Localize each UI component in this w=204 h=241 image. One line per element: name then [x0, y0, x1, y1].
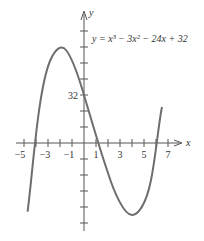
x-axis-label: x — [185, 137, 191, 148]
axes — [16, 11, 182, 231]
y-axis-label: y — [88, 7, 94, 18]
y-tick-label: 32 — [68, 90, 78, 101]
x-tick-label: −3 — [40, 149, 51, 160]
x-tick-label: −1 — [64, 149, 75, 160]
equation-label: y = x³ − 3x² − 24x + 32 — [91, 33, 188, 44]
cubic-function-graph: −5 −3 −1 1 3 5 7 32 x y y = x³ − 3x² − 2… — [0, 0, 204, 241]
cubic-curve — [28, 48, 162, 215]
x-tick-labels: −5 −3 −1 1 3 5 7 — [15, 149, 171, 160]
x-tick-label: 7 — [166, 149, 171, 160]
x-tick-label: 3 — [118, 149, 123, 160]
x-tick-label: 1 — [94, 149, 99, 160]
x-tick-label: 5 — [142, 149, 147, 160]
x-tick-label: −5 — [15, 149, 26, 160]
